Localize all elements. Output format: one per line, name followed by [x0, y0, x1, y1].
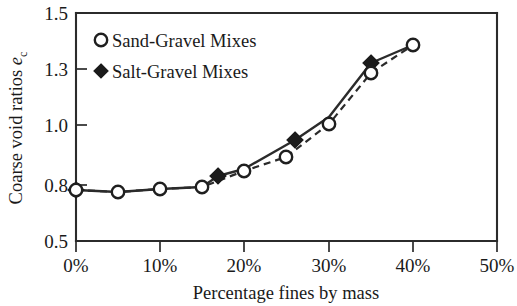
marker-circle-5 [112, 186, 124, 198]
marker-circle-10 [154, 183, 166, 195]
marker-circle-0 [70, 184, 82, 196]
y-ticklabel-1.5: 1.5 [44, 3, 68, 24]
chart-svg: 1.5 1.3 1.0 0.8 0.5 0% 10% 20% 30% 40% 5… [0, 0, 517, 306]
marker-circle-40 [407, 39, 419, 51]
y-ticklabel-1.3: 1.3 [44, 59, 68, 80]
x-ticklabel-0: 0% [63, 255, 89, 276]
y-axis-title-subscript: c [16, 52, 30, 57]
y-ticklabel-0.5: 0.5 [44, 231, 68, 252]
y-axis-title-symbol: e [6, 57, 26, 65]
chart-figure: 1.5 1.3 1.0 0.8 0.5 0% 10% 20% 30% 40% 5… [0, 0, 517, 306]
marker-circle-30 [323, 118, 335, 130]
x-axis-ticks [76, 241, 497, 252]
marker-diamond-17 [210, 168, 226, 184]
legend-label-sand-gravel: Sand-Gravel Mixes [112, 31, 256, 51]
y-axis-title: Coarse void ratios ec [6, 52, 30, 205]
y-axis-ticks [76, 13, 87, 241]
x-ticklabel-50: 50% [480, 255, 515, 276]
marker-circle-25 [280, 151, 292, 163]
x-ticklabel-10: 10% [143, 255, 178, 276]
y-axis-title-group: Coarse void ratios ec [6, 52, 30, 205]
marker-circle-35 [365, 67, 377, 79]
y-ticklabel-1.0: 1.0 [44, 115, 68, 136]
x-axis-tick-labels: 0% 10% 20% 30% 40% 50% [63, 255, 514, 276]
x-axis-title: Percentage fines by mass [193, 283, 379, 303]
x-ticklabel-20: 20% [227, 255, 262, 276]
y-axis-title-prefix: Coarse void ratios [6, 65, 26, 204]
marker-circle-15 [196, 181, 208, 193]
filled-diamond-marker-icon [94, 64, 108, 78]
x-ticklabel-30: 30% [312, 255, 347, 276]
y-ticklabel-0.8: 0.8 [44, 175, 68, 196]
legend-label-salt-gravel: Salt-Gravel Mixes [112, 62, 248, 82]
marker-circle-20 [238, 165, 250, 177]
chart-legend: Sand-Gravel Mixes Salt-Gravel Mixes [94, 31, 256, 82]
x-ticklabel-40: 40% [396, 255, 431, 276]
y-axis-tick-labels: 1.5 1.3 1.0 0.8 0.5 [44, 3, 68, 252]
open-circle-marker-icon [95, 34, 107, 46]
